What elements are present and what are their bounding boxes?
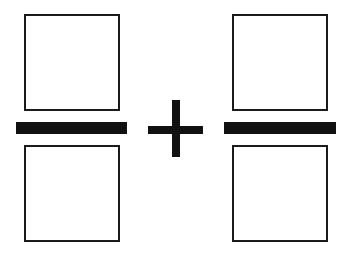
- left-denominator-box: [24, 145, 120, 242]
- left-fraction-bar: [16, 122, 127, 134]
- right-numerator-box: [232, 14, 328, 111]
- left-numerator-box: [24, 14, 120, 111]
- right-denominator-box: [232, 145, 328, 242]
- plus-horizontal-stroke: [148, 126, 203, 134]
- right-fraction-bar: [224, 122, 336, 134]
